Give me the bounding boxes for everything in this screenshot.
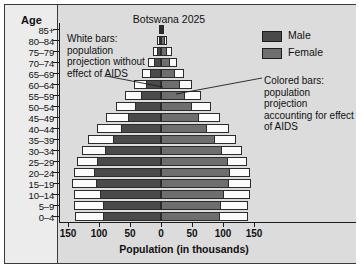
bar-with-aids-left bbox=[121, 124, 161, 134]
bar-with-aids-left bbox=[135, 102, 161, 112]
pyramid-row bbox=[59, 212, 356, 222]
age-label: 85+ bbox=[5, 25, 54, 36]
chart-title: Botswana 2025 bbox=[59, 13, 279, 25]
age-label: 20–24 bbox=[5, 168, 54, 179]
y-tick bbox=[53, 29, 59, 30]
pyramid-row bbox=[59, 135, 356, 145]
bar-with-aids-right bbox=[161, 80, 180, 90]
x-tick bbox=[223, 222, 224, 227]
bar-with-aids-left bbox=[103, 201, 161, 211]
x-tick-label: 100 bbox=[84, 228, 114, 239]
y-tick bbox=[53, 117, 59, 118]
age-label: 60–64 bbox=[5, 80, 54, 91]
y-tick bbox=[53, 106, 59, 107]
pyramid-row bbox=[59, 146, 356, 156]
bar-with-aids-right bbox=[161, 113, 199, 123]
bar-with-aids-right bbox=[161, 124, 207, 134]
bar-with-aids-right bbox=[161, 135, 215, 145]
chart-frame: Age 85+80–8475–7970–7465–6960–6455–5950–… bbox=[4, 4, 356, 264]
age-label: 55–59 bbox=[5, 91, 54, 102]
x-tick bbox=[192, 222, 193, 227]
bar-with-aids-right bbox=[161, 190, 224, 200]
y-tick bbox=[53, 51, 59, 52]
y-tick bbox=[53, 161, 59, 162]
y-tick bbox=[53, 205, 59, 206]
age-label-column: Age 85+80–8475–7970–7465–6960–6455–5950–… bbox=[5, 5, 58, 263]
pyramid-row bbox=[59, 190, 356, 200]
y-tick bbox=[53, 216, 59, 217]
legend-label-male: Male bbox=[288, 29, 311, 41]
pyramid-row bbox=[59, 201, 356, 211]
bar-with-aids-left bbox=[141, 91, 161, 101]
x-tick bbox=[161, 222, 162, 227]
bar-with-aids-right bbox=[161, 157, 228, 167]
y-tick bbox=[53, 172, 59, 173]
x-tick-label: 150 bbox=[239, 228, 269, 239]
bar-with-aids-left bbox=[96, 179, 161, 189]
y-tick bbox=[53, 150, 59, 151]
bar-with-aids-right bbox=[161, 69, 175, 79]
bar-with-aids-right bbox=[161, 179, 229, 189]
age-label: 45–49 bbox=[5, 113, 54, 124]
age-label: 10–14 bbox=[5, 190, 54, 201]
bar-with-aids-right bbox=[161, 168, 230, 178]
bar-with-aids-right bbox=[161, 36, 165, 46]
x-tick-label: 150 bbox=[53, 228, 83, 239]
age-label: 40–44 bbox=[5, 124, 54, 135]
bar-with-aids-left bbox=[94, 168, 161, 178]
bar-with-aids-left bbox=[146, 80, 161, 90]
pyramid-row bbox=[59, 168, 356, 178]
y-tick bbox=[53, 128, 59, 129]
bar-with-aids-left bbox=[103, 212, 161, 222]
y-tick bbox=[53, 139, 59, 140]
age-label: 15–19 bbox=[5, 179, 54, 190]
bar-with-aids-left bbox=[97, 157, 161, 167]
x-tick-label: 0 bbox=[146, 228, 176, 239]
pyramid-row bbox=[59, 157, 356, 167]
population-pyramid-plot: Botswana 2025 15010050050100150 Populati… bbox=[59, 5, 356, 263]
x-tick-label: 50 bbox=[115, 228, 145, 239]
age-label: 5–9 bbox=[5, 201, 54, 212]
bar-with-aids-right bbox=[161, 91, 185, 101]
bar-with-aids-right bbox=[161, 146, 222, 156]
bar-with-aids-right bbox=[161, 201, 221, 211]
age-label: 30–34 bbox=[5, 146, 54, 157]
annotation-colored-bars: Colored bars: population projection acco… bbox=[264, 75, 356, 133]
pyramid-row bbox=[59, 179, 356, 189]
bar-with-aids-right bbox=[161, 47, 167, 57]
annotation-white-bars: White bars: population projection withou… bbox=[67, 33, 153, 79]
y-tick bbox=[53, 95, 59, 96]
age-label: 50–54 bbox=[5, 102, 54, 113]
x-tick bbox=[130, 222, 131, 227]
bar-with-aids-right bbox=[161, 102, 192, 112]
legend-label-female: Female bbox=[288, 46, 323, 58]
bar-with-aids-left bbox=[113, 135, 161, 145]
y-tick bbox=[53, 194, 59, 195]
y-tick bbox=[53, 73, 59, 74]
age-label: 65–69 bbox=[5, 69, 54, 80]
age-label: 0–4 bbox=[5, 212, 54, 223]
age-label: 70–74 bbox=[5, 58, 54, 69]
x-tick bbox=[68, 222, 69, 227]
bar-with-aids-left bbox=[154, 58, 161, 68]
x-axis-line bbox=[59, 222, 356, 223]
y-tick bbox=[53, 40, 59, 41]
age-label: 25–29 bbox=[5, 157, 54, 168]
age-label: 75–79 bbox=[5, 47, 54, 58]
age-label: 35–39 bbox=[5, 135, 54, 146]
x-tick-label: 100 bbox=[208, 228, 238, 239]
legend-swatch-female bbox=[262, 48, 282, 59]
x-tick bbox=[99, 222, 100, 227]
x-axis-title: Population (in thousands) bbox=[59, 243, 309, 255]
bar-with-aids-left bbox=[105, 146, 161, 156]
bar-with-aids-right bbox=[161, 58, 170, 68]
bar-with-aids-right bbox=[161, 25, 163, 35]
age-label: 80–84 bbox=[5, 36, 54, 47]
legend-swatch-male bbox=[262, 31, 282, 42]
bar-with-aids-left bbox=[128, 113, 161, 123]
bar-with-aids-right bbox=[161, 212, 220, 222]
y-tick bbox=[53, 62, 59, 63]
x-tick bbox=[254, 222, 255, 227]
x-tick-label: 50 bbox=[177, 228, 207, 239]
y-tick bbox=[53, 84, 59, 85]
